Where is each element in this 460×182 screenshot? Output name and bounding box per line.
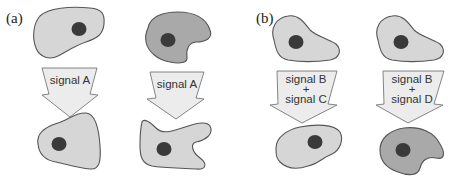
cell-b2-after bbox=[380, 128, 443, 175]
cell-a1-after bbox=[38, 113, 101, 169]
cell-b1-after bbox=[276, 125, 342, 168]
cell-a1-before bbox=[34, 7, 105, 58]
signal-arrow-a1: signal A bbox=[42, 68, 98, 117]
signal-label: signal A bbox=[50, 74, 91, 86]
panel-b: (b) signal B + signal C signal B + bbox=[256, 10, 444, 175]
cell-b2-before bbox=[377, 16, 444, 62]
nucleus bbox=[394, 35, 409, 49]
cell-a2-before bbox=[146, 12, 211, 63]
nucleus bbox=[289, 35, 304, 49]
signal-label-line2: signal C bbox=[285, 93, 327, 105]
nucleus bbox=[308, 135, 323, 149]
signal-arrow-b2: signal B + signal D bbox=[376, 71, 444, 123]
signal-arrow-b1: signal B + signal C bbox=[270, 71, 337, 123]
panel-a: (a) signal A signal A bbox=[6, 7, 211, 169]
nucleus bbox=[72, 22, 87, 36]
nucleus bbox=[161, 33, 176, 47]
signal-label-line2: signal D bbox=[391, 93, 433, 105]
signal-arrow-a2: signal A bbox=[147, 72, 204, 119]
cell-a2-after bbox=[140, 120, 211, 169]
panel-label-a: (a) bbox=[6, 10, 23, 27]
cell-b1-before bbox=[273, 16, 340, 62]
figure-canvas: (a) signal A signal A bbox=[0, 0, 460, 182]
signal-label: signal A bbox=[157, 78, 198, 90]
nucleus bbox=[52, 137, 67, 151]
panel-label-b: (b) bbox=[256, 10, 274, 27]
nucleus bbox=[396, 143, 411, 157]
nucleus bbox=[157, 142, 172, 156]
